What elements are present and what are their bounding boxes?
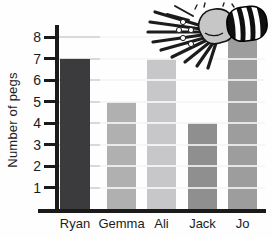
y-tick-label: 3 (16, 137, 41, 153)
y-tick-label: 7 (16, 51, 41, 67)
y-tick-label: 2 (16, 158, 41, 174)
y-tick-label: 6 (16, 72, 41, 88)
gridline-overlay (100, 144, 265, 146)
bar-chart: Number of pegs (0, 0, 273, 238)
hand-holding-pegs-illustration (145, 0, 269, 70)
y-axis-line (55, 25, 59, 212)
gridline-overlay (100, 187, 265, 189)
x-axis-line (38, 209, 266, 213)
y-tick-label: 4 (16, 115, 41, 131)
y-tick-label: 5 (16, 94, 41, 110)
y-axis-tick (44, 36, 57, 39)
y-tick-label: 8 (16, 29, 41, 45)
bar-ryan (60, 59, 90, 209)
gridline-overlay (100, 122, 265, 124)
bar-gemma (107, 102, 136, 209)
y-axis-tick (44, 186, 57, 189)
y-axis-tick (44, 79, 57, 82)
y-axis-tick (44, 100, 57, 103)
y-axis-tick (44, 143, 57, 146)
gridline-overlay (100, 101, 265, 103)
gridline-overlay (100, 79, 265, 81)
y-axis-tick (44, 57, 57, 60)
gridline-overlay (100, 165, 265, 167)
y-tick-label: 1 (16, 180, 41, 196)
y-axis-tick (44, 165, 57, 168)
y-axis-tick (44, 122, 57, 125)
x-category-label: Jo (211, 216, 274, 231)
